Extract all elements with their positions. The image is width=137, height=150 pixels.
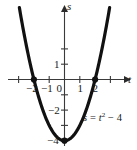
plot-canvas: [0, 0, 137, 150]
equation-constant: 4: [117, 112, 122, 123]
parabola-figure: −2 −1 0 1 2 1 −2 −4 t s s = t2 − 4: [0, 0, 137, 150]
y-tick-label-minus2: −2: [48, 105, 60, 116]
x-tick-label-minus1: −1: [41, 83, 53, 94]
x-tick-label-minus2: −2: [26, 83, 38, 94]
x-axis-label: t: [128, 74, 131, 85]
equation-label: s = t2 − 4: [83, 113, 122, 124]
y-tick-label-1: 1: [54, 59, 60, 70]
x-tick-label-1: 1: [78, 83, 84, 94]
x-tick-label-2: 2: [93, 83, 99, 94]
equation-equals: =: [87, 112, 98, 123]
origin-label: 0: [57, 83, 63, 94]
y-axis-label: s: [67, 1, 71, 12]
vertex-point: [61, 138, 67, 144]
y-tick-label-minus4: −4: [47, 135, 59, 146]
equation-minus: −: [105, 112, 116, 123]
